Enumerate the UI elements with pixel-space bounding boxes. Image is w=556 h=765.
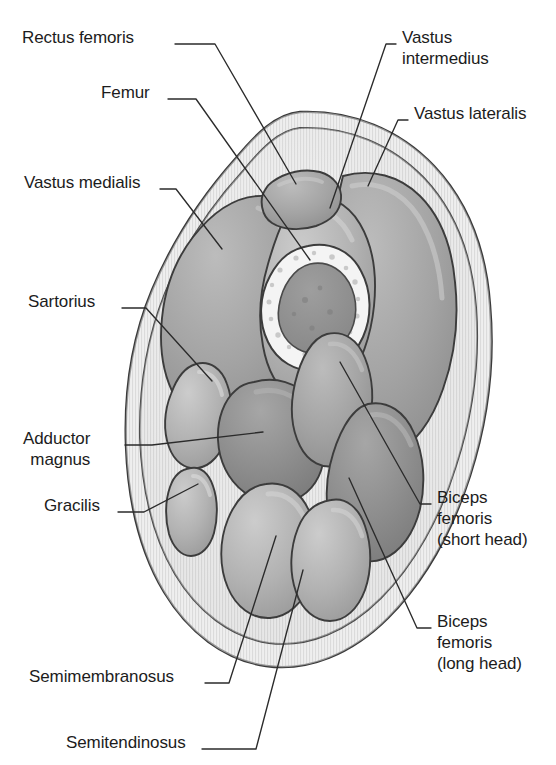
label-adductor-magnus: Adductor magnus [23,428,90,470]
label-vastus-intermedius: Vastus intermedius [402,27,489,69]
semitendinosus-muscle [291,500,370,621]
label-semitendinosus: Semitendinosus [66,732,186,753]
label-rectus-femoris: Rectus femoris [22,27,134,48]
label-vastus-lateralis: Vastus lateralis [414,103,526,124]
label-biceps-femoris-short-head: Biceps femoris (short head) [437,487,527,550]
label-semimembranosus: Semimembranosus [29,666,174,687]
label-biceps-femoris-long-head: Biceps femoris (long head) [437,611,522,674]
label-sartorius: Sartorius [28,291,95,312]
label-femur: Femur [101,82,150,103]
label-vastus-medialis: Vastus medialis [24,172,140,193]
thigh-cross-section-figure: Rectus femorisFemurVastus intermediusVas… [0,0,556,765]
label-gracilis: Gracilis [44,495,100,516]
gracilis-muscle [166,468,217,556]
